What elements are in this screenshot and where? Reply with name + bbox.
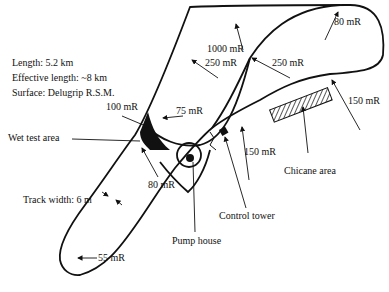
track-diagram: Length: 5.2 km Effective length: ~8 km S… — [0, 0, 389, 292]
radius-1000: 1000 mR — [207, 43, 244, 54]
radius-150-right: 150 mR — [348, 95, 380, 106]
chicane-shape — [270, 88, 333, 122]
track-drawing: 80 mR 1000 mR 250 mR 250 mR 150 mR 100 m… — [0, 0, 389, 292]
control-tower-icon — [219, 126, 229, 136]
radius-250-right: 250 mR — [272, 57, 304, 68]
chicane-area-label: Chicane area — [284, 165, 336, 176]
radius-55: 55 mR — [98, 252, 125, 263]
pump-house-icon — [186, 154, 194, 162]
radius-250-left: 250 mR — [205, 57, 237, 68]
radius-80-top: 80 mR — [334, 16, 361, 27]
radius-150-mid: 150 mR — [244, 146, 276, 157]
wet-test-area-label: Wet test area — [8, 132, 60, 143]
control-tower-label: Control tower — [219, 210, 275, 221]
radius-75: 75 mR — [176, 105, 203, 116]
radius-100: 100 mR — [106, 101, 138, 112]
radius-80-mid: 80 mR — [148, 179, 175, 190]
track-width-label: Track width: 6 m — [23, 194, 92, 205]
pump-house-label: Pump house — [172, 235, 222, 246]
